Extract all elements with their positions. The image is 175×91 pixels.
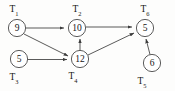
node-label-subscript-t5: 5 (143, 82, 146, 89)
node-label-t4: T4 (68, 71, 78, 84)
node-label-t6: T6 (140, 4, 149, 17)
node-label-t5: T5 (137, 76, 146, 89)
node-t3[interactable]: 5T3 (9, 50, 27, 85)
node-label-t2: T2 (72, 4, 81, 17)
node-t2[interactable]: 10T2 (68, 4, 85, 37)
edge-t5-to-t6 (146, 39, 150, 55)
edge-t1-to-t4 (24, 34, 68, 56)
node-label-t3: T3 (9, 72, 18, 85)
node-label-subscript-t2: 2 (78, 10, 81, 17)
edge-t4-to-t6 (88, 33, 134, 55)
node-value-t1: 9 (15, 23, 20, 33)
node-value-t5: 6 (150, 58, 155, 68)
node-label-t1: T1 (9, 4, 18, 17)
node-value-t6: 5 (143, 23, 148, 33)
node-t4[interactable]: 12T4 (68, 50, 88, 84)
node-label-subscript-t4: 4 (74, 77, 78, 84)
graph-canvas: 9T110T25T65T312T46T5 (0, 0, 175, 91)
node-label-subscript-t1: 1 (15, 10, 18, 17)
node-label-subscript-t3: 3 (15, 78, 18, 85)
node-t5[interactable]: 6T5 (137, 54, 160, 89)
task-graph-diagram: 9T110T25T65T312T46T5 (0, 0, 175, 91)
node-t6[interactable]: 5T6 (136, 4, 153, 37)
node-label-subscript-t6: 6 (146, 10, 149, 17)
node-t1[interactable]: 9T1 (8, 4, 25, 37)
nodes-group: 9T110T25T65T312T46T5 (8, 4, 160, 89)
node-value-t2: 10 (72, 23, 82, 33)
node-value-t4: 12 (75, 54, 85, 64)
node-value-t3: 5 (17, 54, 22, 64)
